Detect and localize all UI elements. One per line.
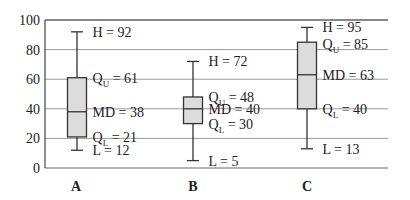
y-tick-label: 100 — [19, 13, 40, 28]
box — [298, 42, 317, 109]
label-median: MD = 38 — [93, 105, 144, 120]
box — [184, 97, 203, 124]
y-tick-label: 0 — [33, 161, 40, 176]
box-plot-chart: 020406080100H = 92MD = 38L = 12QU = 61QL… — [0, 0, 410, 200]
label-low: L = 5 — [209, 154, 239, 169]
chart-canvas: 020406080100H = 92MD = 38L = 12QU = 61QL… — [0, 0, 410, 200]
label-median: MD = 63 — [323, 68, 374, 83]
label-upper-quartile: QU = 61 — [93, 71, 139, 89]
y-tick-label: 60 — [26, 72, 40, 87]
label-high: H = 92 — [93, 25, 132, 40]
x-category-label: A — [71, 179, 82, 194]
label-lower-quartile: QL = 30 — [209, 117, 254, 135]
label-low: L = 13 — [323, 142, 360, 157]
label-low: L = 12 — [93, 143, 130, 158]
label-lower-quartile: QL = 40 — [323, 102, 368, 120]
y-tick-label: 40 — [26, 102, 40, 117]
label-high: H = 72 — [209, 54, 248, 69]
y-tick-label: 20 — [26, 131, 40, 146]
box — [68, 78, 87, 137]
x-category-label: C — [302, 179, 312, 194]
label-upper-quartile: QU = 85 — [323, 37, 369, 55]
x-category-label: B — [188, 179, 197, 194]
label-high: H = 95 — [323, 20, 362, 35]
y-tick-label: 80 — [26, 43, 40, 58]
